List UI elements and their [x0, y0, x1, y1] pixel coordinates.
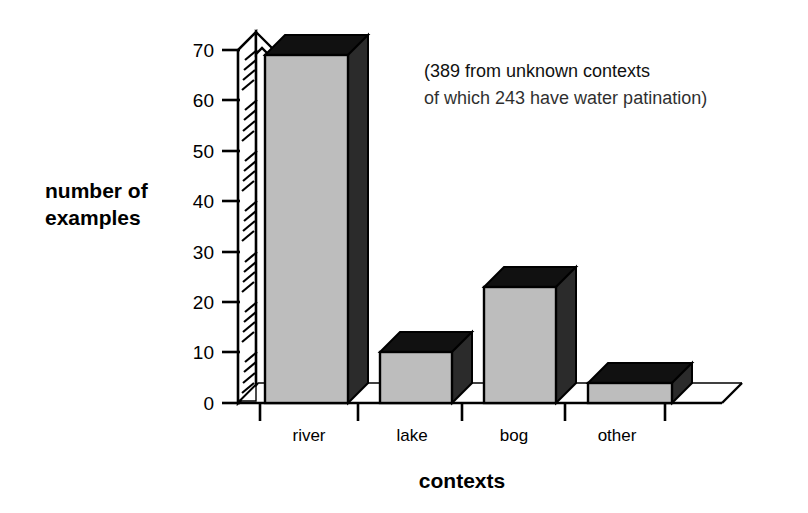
annotation-note: (389 from unknown contexts of which 243 …	[424, 61, 707, 108]
y-axis-title: number of examples	[45, 179, 149, 229]
bar-other	[588, 363, 692, 403]
x-axis-title: contexts	[419, 469, 505, 492]
bar-river-front	[265, 55, 348, 403]
bar-river	[265, 35, 368, 403]
annotation-line-2: of which 243 have water patination)	[424, 88, 707, 108]
y-tick-label-50: 50	[193, 141, 214, 162]
y-tick-label-60: 60	[193, 90, 214, 111]
x-axis-ticks	[260, 403, 665, 421]
y-tick-label-0: 0	[203, 393, 214, 414]
bar-bog	[484, 267, 576, 403]
y-tick-label-40: 40	[193, 191, 214, 212]
y-tick-label-70: 70	[193, 40, 214, 61]
bar-chart-figure: 0 10 20 30 40 50 60 70	[0, 0, 808, 513]
category-label-lake: lake	[396, 426, 427, 445]
y-tick-label-10: 10	[193, 342, 214, 363]
category-label-other: other	[598, 426, 637, 445]
bar-bog-side	[556, 267, 576, 403]
bar-river-side	[348, 35, 368, 403]
y-tick-label-30: 30	[193, 242, 214, 263]
y-tick-labels: 0 10 20 30 40 50 60 70	[193, 40, 214, 414]
chart-canvas: 0 10 20 30 40 50 60 70	[0, 0, 808, 513]
annotation-line-1: (389 from unknown contexts	[424, 61, 650, 81]
bar-lake	[380, 332, 472, 403]
y-axis-title-line1: number of	[45, 179, 149, 202]
bar-other-front	[588, 383, 672, 403]
category-label-bog: bog	[500, 426, 528, 445]
x-category-labels: river lake bog other	[292, 426, 636, 445]
y-axis-title-line2: examples	[45, 206, 141, 229]
y-tick-label-20: 20	[193, 292, 214, 313]
category-label-river: river	[292, 426, 325, 445]
bar-lake-front	[380, 352, 452, 403]
bar-bog-front	[484, 287, 556, 403]
